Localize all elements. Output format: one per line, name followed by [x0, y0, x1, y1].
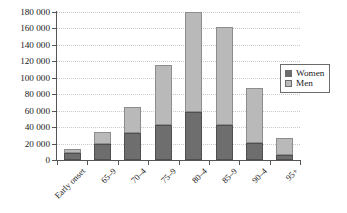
- legend-swatch-men: [285, 80, 292, 87]
- y-axis-tick-label: 160 000: [20, 23, 50, 33]
- stacked-bar-chart: 020 00040 00060 00080 000100 000120 0001…: [0, 0, 347, 213]
- bar-group[interactable]: [64, 12, 81, 160]
- legend-label-women: Women: [296, 69, 324, 78]
- bar-segment-women[interactable]: [185, 112, 202, 160]
- x-axis-tick-label: Early onset: [53, 166, 88, 201]
- y-axis-tick-label: 140 000: [20, 40, 50, 50]
- x-axis-tick: [57, 160, 58, 165]
- legend-item-women[interactable]: Women: [285, 69, 324, 78]
- bar-segment-women[interactable]: [94, 144, 111, 160]
- legend-label-men: Men: [296, 79, 313, 88]
- y-axis-tick-label: 40 000: [25, 122, 50, 132]
- x-axis-tick: [239, 160, 240, 165]
- bar-segment-men[interactable]: [94, 132, 111, 144]
- y-axis-tick-label: 120 000: [20, 56, 50, 66]
- bar-segment-women[interactable]: [216, 125, 233, 160]
- x-axis-tick-label: 95+: [283, 166, 300, 183]
- bar-segment-men[interactable]: [124, 107, 141, 132]
- legend-swatch-women: [285, 70, 292, 77]
- bar-group[interactable]: [216, 12, 233, 160]
- x-axis-tick-label: 90–4: [250, 166, 269, 185]
- bar-group[interactable]: [124, 12, 141, 160]
- y-axis-tick-label: 80 000: [25, 89, 50, 99]
- x-axis-tick: [148, 160, 149, 165]
- bar-group[interactable]: [155, 12, 172, 160]
- bar-segment-women[interactable]: [276, 155, 293, 160]
- bar-segment-women[interactable]: [124, 133, 141, 160]
- x-axis-tick: [87, 160, 88, 165]
- bar-group[interactable]: [246, 12, 263, 160]
- bar-group[interactable]: [94, 12, 111, 160]
- y-axis-tick-label: 180 000: [20, 7, 50, 17]
- bar-segment-men[interactable]: [246, 88, 263, 142]
- x-axis-tick: [300, 160, 301, 165]
- bar-segment-men[interactable]: [216, 27, 233, 125]
- x-axis-tick-label: 65–9: [98, 166, 117, 185]
- x-axis-tick-label: 85–9: [220, 166, 239, 185]
- bar-segment-women[interactable]: [246, 143, 263, 160]
- bars-layer: [57, 12, 300, 160]
- x-axis-tick-label: 80–4: [190, 166, 209, 185]
- y-axis-tick-label: 20 000: [25, 139, 50, 149]
- bar-segment-men[interactable]: [185, 12, 202, 112]
- bar-segment-women[interactable]: [64, 153, 81, 160]
- bar-segment-men[interactable]: [155, 65, 172, 125]
- x-axis-tick: [209, 160, 210, 165]
- x-axis-tick: [118, 160, 119, 165]
- bar-segment-women[interactable]: [155, 125, 172, 160]
- x-axis-tick-label: 70–4: [129, 166, 148, 185]
- plot-area: 020 00040 00060 00080 000100 000120 0001…: [57, 12, 300, 160]
- x-axis-tick: [270, 160, 271, 165]
- x-axis-tick: [179, 160, 180, 165]
- chart-legend: Women Men: [280, 64, 330, 93]
- bar-group[interactable]: [185, 12, 202, 160]
- legend-item-men[interactable]: Men: [285, 79, 324, 88]
- y-axis-tick-label: 60 000: [25, 106, 50, 116]
- y-axis-tick-label: 0: [45, 155, 50, 165]
- bar-segment-men[interactable]: [276, 138, 293, 155]
- y-axis-tick-label: 100 000: [20, 73, 50, 83]
- x-axis-tick-label: 75–9: [159, 166, 178, 185]
- bar-segment-men[interactable]: [64, 149, 81, 153]
